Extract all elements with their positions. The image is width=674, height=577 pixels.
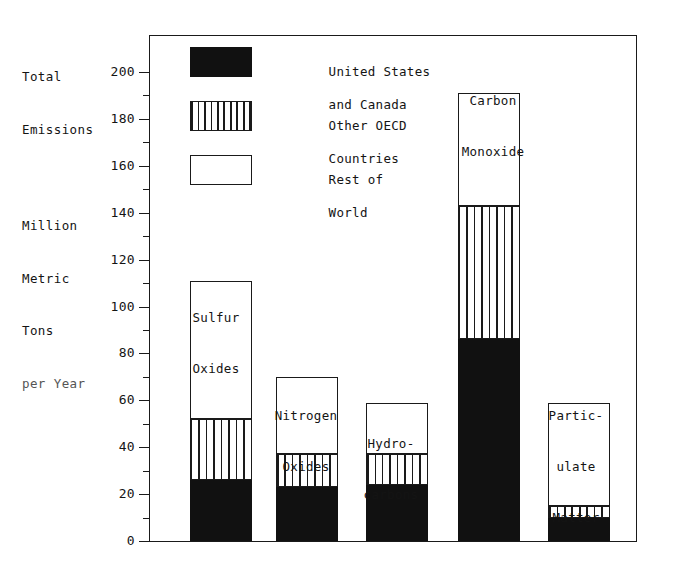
bar-label-line: Sulfur <box>170 309 262 326</box>
y-axis-minor-tick-10 <box>143 518 150 519</box>
y-axis-tick-60 <box>139 400 150 401</box>
y-axis-tick-20 <box>139 494 150 495</box>
emissions-stacked-bar-chart: Total Emissions Million Metric Tons per … <box>0 0 674 577</box>
y-axis-minor-tick-150 <box>143 189 150 190</box>
y-axis-tick-label-20: 20 <box>93 487 135 500</box>
legend-label-line: United States <box>329 64 431 79</box>
y-axis-title-line-5: Tons <box>22 322 93 340</box>
y-axis-minor-tick-50 <box>143 424 150 425</box>
y-axis-tick-label-180: 180 <box>93 112 135 125</box>
y-axis-minor-tick-30 <box>143 471 150 472</box>
y-axis-tick-label-80: 80 <box>93 346 135 359</box>
y-axis-tick-label-60: 60 <box>93 393 135 406</box>
bar-segment-carbon-monoxide-other-oecd <box>458 206 520 340</box>
y-axis-tick-80 <box>139 353 150 354</box>
y-axis-tick-100 <box>139 307 150 308</box>
bar-label-carbon-monoxide: Carbon Monoxide <box>434 58 552 194</box>
y-axis-tick-label-200: 200 <box>93 65 135 78</box>
y-axis-tick-180 <box>139 119 150 120</box>
legend-label-line: Other OECD <box>329 118 407 133</box>
y-axis-tick-label-140: 140 <box>93 206 135 219</box>
bar-label-line: ulate <box>522 458 630 475</box>
legend-swatch-solid-black-icon <box>190 47 252 77</box>
y-axis-minor-tick-130 <box>143 236 150 237</box>
y-axis-tick-label-120: 120 <box>93 253 135 266</box>
y-axis-tick-label-0: 0 <box>93 534 135 547</box>
legend-label-line: Rest of <box>329 172 384 187</box>
y-axis-title-line-6: per Year <box>22 375 93 393</box>
y-axis-tick-120 <box>139 260 150 261</box>
y-axis-minor-tick-110 <box>143 283 150 284</box>
bar-label-line: Monoxide <box>434 143 552 160</box>
legend-label-rest-of-world: Rest of World <box>266 155 383 238</box>
y-axis-title-line-2: Emissions <box>22 121 93 139</box>
bar-label-line: Hydro- <box>341 435 441 452</box>
y-axis-tick-200 <box>139 72 150 73</box>
y-axis-minor-tick-190 <box>143 95 150 96</box>
y-axis-title: Total Emissions Million Metric Tons per … <box>22 33 93 427</box>
y-axis-title-line-3: Million <box>22 217 93 235</box>
bar-label-line: carbons <box>341 486 441 503</box>
legend-swatch-white-icon <box>190 155 252 185</box>
y-axis-tick-140 <box>139 213 150 214</box>
y-axis-tick-0 <box>139 541 150 542</box>
y-axis-tick-160 <box>139 166 150 167</box>
bar-segment-carbon-monoxide-us-canada <box>458 339 520 541</box>
bar-segment-sulfur-oxides-other-oecd <box>190 419 252 480</box>
bar-label-sulfur-oxides: Sulfur Oxides <box>170 275 262 411</box>
y-axis-title-line-4: Metric <box>22 270 93 288</box>
y-axis-minor-tick-170 <box>143 142 150 143</box>
y-axis-minor-tick-90 <box>143 330 150 331</box>
y-axis-tick-40 <box>139 447 150 448</box>
bar-label-line: Matter <box>522 509 630 526</box>
bar-segment-sulfur-oxides-us-canada <box>190 480 252 541</box>
y-axis-tick-label-100: 100 <box>93 300 135 313</box>
y-axis-tick-label-160: 160 <box>93 159 135 172</box>
bar-label-particulate-matter: Partic- ulate Matter <box>522 373 630 560</box>
y-axis-minor-tick-70 <box>143 377 150 378</box>
y-axis-title-line-1: Total <box>22 68 93 86</box>
bar-label-line: Carbon <box>434 92 552 109</box>
y-axis-title-spacer <box>22 173 93 182</box>
bar-label-line: Partic- <box>522 407 630 424</box>
legend-swatch-vertical-hatch-icon <box>190 101 252 131</box>
legend-label-line: World <box>329 205 368 220</box>
bar-label-hydrocarbons: Hydro- carbons <box>341 401 441 537</box>
bar-label-line: Oxides <box>170 360 262 377</box>
legend-entry-rest-of-world: Rest of World <box>190 155 383 238</box>
y-axis-tick-label-40: 40 <box>93 440 135 453</box>
